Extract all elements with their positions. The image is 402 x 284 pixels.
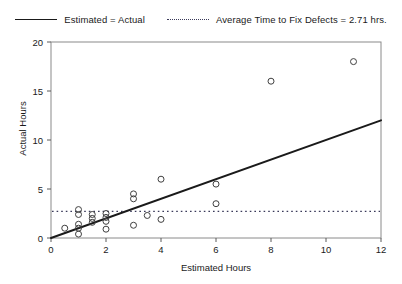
x-tick-label: 6	[213, 244, 218, 255]
tick-labels: 02468101205101520	[32, 37, 386, 256]
y-tick-label: 10	[32, 135, 43, 146]
x-tick-label: 10	[321, 244, 332, 255]
y-axis-title: Actual Hours	[17, 69, 28, 189]
x-tick-label: 8	[268, 244, 273, 255]
data-point	[76, 221, 82, 227]
x-tick-label: 0	[48, 244, 53, 255]
x-tick-label: 2	[103, 244, 108, 255]
data-point	[158, 216, 164, 222]
data-point	[76, 231, 82, 237]
identity-line	[51, 120, 381, 238]
data-point	[351, 59, 357, 65]
x-axis-title: Estimated Hours	[51, 262, 381, 273]
x-tick-label: 4	[158, 244, 163, 255]
data-point	[103, 226, 109, 232]
data-point	[268, 78, 274, 84]
data-points	[62, 59, 357, 237]
y-tick-label: 15	[32, 86, 43, 97]
y-tick-label: 0	[38, 233, 43, 244]
y-tick-label: 5	[38, 184, 43, 195]
data-point	[158, 176, 164, 182]
data-point	[131, 222, 137, 228]
data-point	[103, 211, 109, 217]
scatter-chart: Estimated = Actual Average Time to Fix D…	[0, 0, 402, 284]
data-point	[144, 212, 150, 218]
data-point	[213, 181, 219, 187]
data-point	[89, 211, 95, 217]
data-point	[213, 201, 219, 207]
plot-svg: 02468101205101520	[0, 0, 402, 284]
x-tick-label: 12	[376, 244, 387, 255]
data-point	[62, 225, 68, 231]
y-tick-label: 20	[32, 37, 43, 48]
plot-area: 02468101205101520	[0, 0, 402, 284]
